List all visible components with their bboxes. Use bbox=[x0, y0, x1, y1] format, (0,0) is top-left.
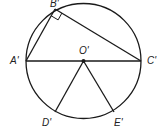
label-c: C' bbox=[147, 55, 157, 66]
label-b: B' bbox=[50, 0, 60, 9]
segment-ab bbox=[26, 9, 55, 61]
label-a: A' bbox=[9, 55, 20, 66]
segment-bc bbox=[55, 9, 141, 61]
center-point bbox=[82, 59, 86, 63]
geometry-diagram: B' A' C' O' D' E' bbox=[0, 0, 165, 132]
segment-oe bbox=[84, 61, 115, 112]
label-o: O' bbox=[79, 45, 90, 56]
segment-od bbox=[55, 61, 84, 112]
label-d: D' bbox=[42, 117, 52, 128]
label-e: E' bbox=[114, 117, 124, 128]
